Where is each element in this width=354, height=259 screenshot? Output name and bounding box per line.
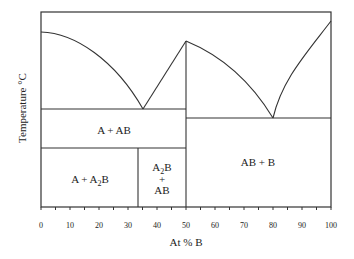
region-label-a-a2b: A + A2B: [71, 173, 109, 188]
x-axis-ticks: [41, 207, 331, 210]
region-label-a2b-ab-line3: AB: [154, 184, 169, 196]
x-tick-label: 40: [153, 221, 161, 230]
x-tick-label: 10: [66, 221, 74, 230]
x-tick-label: 90: [298, 221, 306, 230]
x-tick-label: 60: [211, 221, 219, 230]
x-tick-label: 100: [325, 221, 337, 230]
region-label-ab-b: AB + B: [241, 156, 275, 168]
liquidus-curve-ab-left: [143, 41, 186, 109]
liquidus-curve-b: [273, 21, 331, 118]
x-axis-tick-labels: 0102030405060708090100: [39, 221, 337, 230]
y-axis-label: Temperature °C: [16, 73, 28, 143]
x-tick-label: 70: [240, 221, 248, 230]
x-tick-label: 80: [269, 221, 277, 230]
region-label-a-ab: A + AB: [97, 124, 131, 136]
x-axis-label: At % B: [170, 236, 203, 248]
x-tick-label: 30: [124, 221, 132, 230]
liquidus-curve-ab-right: [186, 41, 273, 118]
x-tick-label: 50: [182, 221, 190, 230]
x-tick-label: 20: [95, 221, 103, 230]
liquidus-curve-a: [41, 32, 143, 109]
x-tick-label: 0: [39, 221, 43, 230]
phase-diagram: 0102030405060708090100 A + AB A + A2B A2…: [0, 0, 354, 259]
